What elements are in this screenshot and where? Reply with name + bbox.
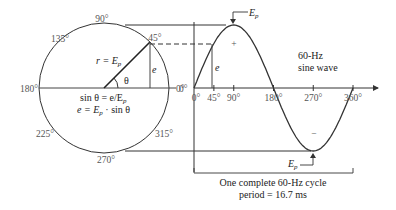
cycle-caption: One complete 60-Hz cycle — [220, 177, 327, 188]
trough-arrow-icon — [310, 153, 316, 158]
angle-label-135: 135° — [51, 34, 69, 44]
angle-label-90: 90° — [95, 14, 109, 24]
e-label-circle: e — [152, 64, 157, 75]
caption-sine-wave: sine wave — [298, 62, 338, 73]
phasor-sine-diagram: 90° 135° 45° 180° 0° 225° 315° 270° r = … — [0, 0, 396, 210]
e-label-wave: e — [215, 62, 220, 73]
cycle-bracket — [194, 168, 353, 173]
x-tick-label-360: 360° — [344, 93, 362, 103]
angle-label-45: 45° — [148, 33, 162, 43]
sine-wave-group: e 0° 0°45°90°180°270°360° + − Ep Ep 60-H… — [176, 7, 378, 200]
angle-label-225: 225° — [36, 129, 54, 139]
x-tick-label-270: 270° — [304, 93, 322, 103]
peak-label: Ep — [248, 7, 259, 20]
trough-label: Ep — [287, 158, 298, 171]
x-tick-label-180: 180° — [264, 93, 282, 103]
x-tick-labels: 0°45°90°180°270°360° — [192, 93, 363, 103]
period-caption: period = 16.7 ms — [239, 189, 307, 200]
phasor-circle-group: 90° 135° 45° 180° 0° 225° 315° 270° r = … — [20, 14, 188, 165]
angle-label-270: 270° — [97, 155, 115, 165]
caption-60hz: 60-Hz — [298, 50, 324, 61]
formula-e: e = Ep · sin θ — [77, 104, 130, 117]
trough-pointer-line — [300, 157, 313, 165]
origin-label: 0° — [176, 84, 185, 94]
angle-label-315: 315° — [155, 129, 173, 139]
theta-label: θ — [124, 75, 129, 86]
x-tick-label-90: 90° — [227, 93, 241, 103]
angle-label-180: 180° — [20, 84, 38, 94]
peak-arrow-icon — [230, 19, 236, 24]
x-tick-label-0: 0° — [192, 93, 201, 103]
x-tick-label-45: 45° — [207, 93, 221, 103]
theta-arc — [114, 78, 118, 88]
plus-sign: + — [231, 39, 236, 49]
minus-sign: − — [311, 129, 316, 139]
radius-label: r = Ep — [96, 55, 122, 68]
